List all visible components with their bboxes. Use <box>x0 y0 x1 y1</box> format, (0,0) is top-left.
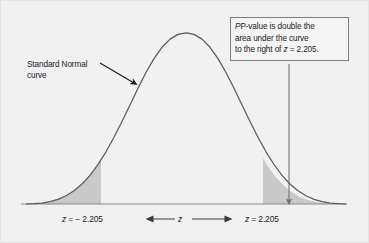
axis-label-right: z = 2.205 <box>245 214 279 224</box>
standard-normal-curve-label: Standard Normal curve <box>27 59 123 81</box>
p-value-annotation-box: PP-value is double the area under the cu… <box>230 17 349 61</box>
normal-curve-figure: PP-value is double the area under the cu… <box>0 0 369 243</box>
left-tail-shaded-region <box>29 158 101 204</box>
annotation-line-3-prefix: to the right of <box>235 45 283 54</box>
z-span-arrow-right-head <box>225 216 233 223</box>
annotation-line-1-text: P-value is double the <box>240 22 314 31</box>
curve-label-line-1: Standard Normal <box>27 60 87 69</box>
annotation-line-1: PP-value is double the <box>235 21 344 33</box>
axis-label-left: z = − 2.205 <box>62 214 103 224</box>
annotation-line-2: area under the curve <box>235 33 344 45</box>
axis-label-left-value: = − 2.205 <box>66 214 103 224</box>
axis-label-mid: z <box>178 214 182 224</box>
z-span-arrow-left-head <box>146 216 154 223</box>
annotation-line-3-suffix: = 2.205. <box>287 45 318 54</box>
annotation-line-3: to the right of z = 2.205. <box>235 44 344 56</box>
curve-label-line-2: curve <box>27 71 47 80</box>
axis-label-right-value: = 2.205 <box>249 214 279 224</box>
